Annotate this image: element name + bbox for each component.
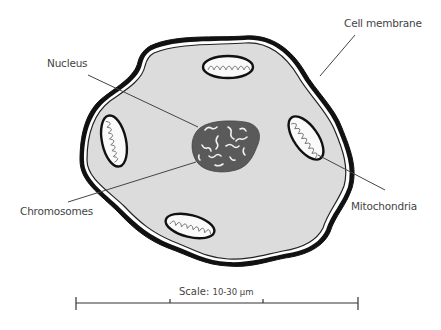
nucleus-label: Nucleus <box>47 57 87 69</box>
cell-membrane-leader-line <box>320 35 355 76</box>
cell-diagram <box>0 0 441 330</box>
scale-label: Scale: 10-30 μm <box>179 286 254 297</box>
mitochondrion-top <box>203 56 253 78</box>
chromosomes-label: Chromosomes <box>20 205 93 217</box>
cell-membrane-label: Cell membrane <box>344 17 422 29</box>
scale-value: 10-30 μm <box>212 287 253 297</box>
scale-bar <box>76 297 358 310</box>
mitochondria-label: Mitochondria <box>351 200 417 212</box>
scale-prefix: Scale: <box>179 286 209 297</box>
